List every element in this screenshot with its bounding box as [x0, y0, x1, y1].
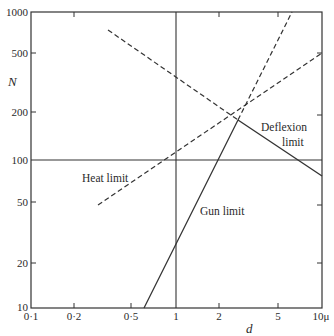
y-tick-50: 50	[17, 196, 29, 208]
x-tick-labels: 0·1 0·2 0·5 1 2 5 10μ	[24, 310, 330, 322]
heat-limit-label: Heat limit	[82, 172, 129, 184]
x-tick-0.2: 0·2	[67, 310, 82, 322]
y-tick-200: 200	[12, 106, 29, 118]
y-tick-1000: 1000	[6, 6, 29, 18]
y-tick-20: 20	[17, 257, 29, 269]
x-tick-5: 5	[275, 310, 281, 322]
gun-limit-label: Gun limit	[200, 205, 245, 217]
x-tick-1: 1	[173, 310, 179, 322]
x-axis-label: d	[246, 321, 253, 336]
deflexion-limit-extension	[108, 30, 238, 120]
x-tick-10: 10μ	[313, 310, 330, 322]
y-tick-labels: 1000 500 200 100 50 20 10	[6, 6, 29, 313]
y-tick-100: 100	[12, 154, 29, 166]
y-tick-500: 500	[12, 47, 29, 59]
x-tick-2: 2	[216, 310, 222, 322]
chart: 1000 500 200 100 50 20 10 0·1 0·2 0·5 1 …	[0, 0, 334, 336]
deflexion-limit-label-line2: limit	[282, 136, 305, 148]
y-axis-label: N	[7, 74, 18, 89]
x-tick-0.5: 0·5	[124, 310, 139, 322]
deflexion-limit-label-line1: Deflexion	[261, 121, 307, 133]
x-tick-0.1: 0·1	[24, 310, 39, 322]
